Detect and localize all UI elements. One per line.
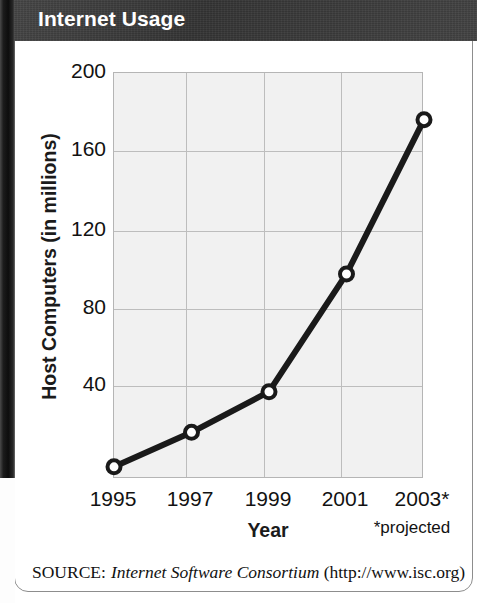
scanned-page-edge-lower — [0, 478, 15, 603]
y-tick-40: 40 — [44, 372, 106, 396]
source-citation: SOURCE:Internet Software Consortium (htt… — [32, 562, 465, 583]
series-line-chart — [114, 73, 424, 479]
projected-footnote: *projected — [352, 518, 472, 538]
data-point-1995 — [108, 460, 121, 473]
y-tick-160: 160 — [44, 137, 106, 161]
chart-figure: Host Computers (in millions) 200 160 120… — [0, 41, 477, 551]
series-polyline — [114, 120, 424, 467]
data-point-2001 — [340, 267, 353, 280]
source-label: SOURCE: — [32, 562, 106, 582]
data-point-1997 — [185, 426, 198, 439]
y-axis-tick-group: 200 160 120 80 40 — [40, 41, 106, 551]
y-tick-120: 120 — [44, 217, 106, 241]
source-url: (http://www.isc.org) — [324, 562, 465, 582]
data-point-2003 — [418, 113, 431, 126]
y-tick-200: 200 — [44, 59, 106, 83]
page-title: Internet Usage — [38, 7, 185, 31]
scanned-page-edge — [0, 0, 15, 482]
x-tick-2003: 2003* — [367, 487, 477, 511]
data-point-1999 — [263, 385, 276, 398]
source-organization: Internet Software Consortium — [106, 562, 319, 582]
plot-area — [113, 72, 423, 478]
chart-title-bar: Internet Usage — [14, 0, 477, 41]
series-marker-group — [108, 113, 431, 473]
y-tick-80: 80 — [44, 295, 106, 319]
x-axis-tick-group: 1995 1997 1999 2001 2003* — [0, 487, 477, 521]
